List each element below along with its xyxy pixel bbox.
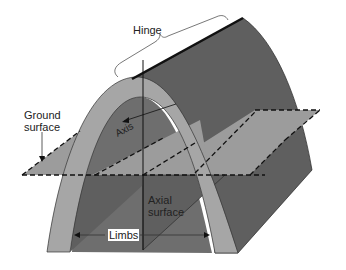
limbs-label: Limbs — [108, 229, 139, 241]
axial-surface-label-line2: surface — [148, 206, 184, 218]
axial-surface-label-line1: Axial — [148, 194, 172, 206]
ground-surface-label-line1: Ground — [24, 109, 61, 121]
ground-surface-label-line2: surface — [24, 121, 60, 133]
fold-diagram — [0, 0, 346, 270]
hinge-label: Hinge — [133, 24, 162, 36]
